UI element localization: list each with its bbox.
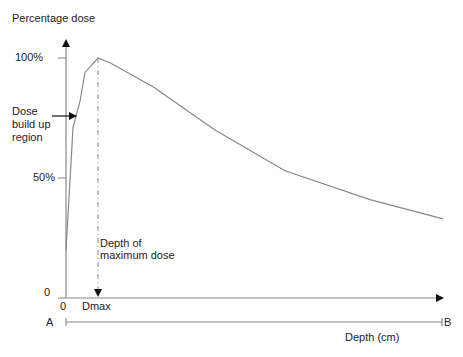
point-a-label: A (46, 316, 53, 329)
buildup-label-line1: Dose (12, 105, 38, 118)
depth-dose-diagram (0, 0, 463, 357)
y-tick-50-label: 50% (33, 171, 55, 184)
y-tick-0-label: 0 (44, 286, 50, 299)
y-tick-100-label: 100% (15, 51, 43, 64)
buildup-label-line3: region (12, 131, 43, 144)
buildup-label-line2: build up (12, 118, 51, 131)
depth-axis-label: Depth (cm) (345, 331, 399, 344)
y-axis-title: Percentage dose (12, 12, 95, 25)
x-tick-dmax-label: Dmax (82, 300, 111, 313)
dmax-label-line2: maximum dose (100, 249, 175, 262)
dose-curve (66, 58, 443, 250)
point-b-label: B (444, 316, 451, 329)
x-tick-0-label: 0 (60, 300, 66, 313)
